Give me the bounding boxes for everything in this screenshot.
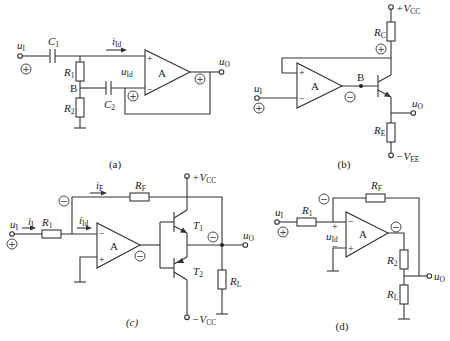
opamp-label-a: A (158, 67, 166, 79)
svg-text:C2: C2 (104, 98, 115, 112)
panel-b: +VCC RC B uI A + − uO RE −VEE + − + (b) (254, 2, 424, 171)
svg-text:−: − (392, 222, 400, 232)
polarity-mark: − (135, 251, 145, 261)
polarity-mark: + (254, 103, 264, 113)
input-terminal-b (255, 96, 260, 101)
svg-text:uI: uI (10, 218, 19, 232)
panel-d: uI R1 RF + uId − A − + R2 RL uO + − − (d… (275, 179, 446, 333)
output-terminal-b (411, 111, 416, 116)
polarity-mark: + (21, 64, 31, 74)
output-terminal-d (427, 274, 432, 279)
svg-text:C1: C1 (48, 35, 59, 49)
polarity-mark: − (208, 232, 218, 242)
svg-text:−: − (299, 93, 305, 104)
polarity-mark: − (345, 92, 355, 102)
svg-text:−: − (136, 251, 144, 261)
svg-text:R1: R1 (41, 216, 53, 230)
npn-transistor-t1 (174, 210, 187, 233)
resistor-rf-d (366, 194, 385, 202)
resistor-re-b (387, 123, 395, 142)
input-terminal-a (18, 54, 23, 59)
svg-text:+VCC: +VCC (192, 171, 216, 185)
svg-text:iI: iI (28, 215, 34, 229)
svg-text:+: + (129, 91, 137, 101)
svg-text:−VEE: −VEE (396, 150, 420, 164)
svg-text:RL: RL (229, 275, 242, 289)
svg-text:+: + (332, 221, 338, 232)
svg-text:R2: R2 (386, 254, 398, 268)
polarity-mark: − (319, 194, 329, 204)
capacitor-c2-a (106, 81, 111, 95)
resistor-r2-a (76, 98, 84, 117)
svg-text:iId: iId (112, 35, 122, 49)
svg-text:+: + (22, 64, 30, 74)
node-b-label-a: B (70, 82, 77, 94)
npn-transistor-b (378, 75, 391, 97)
resistor-r1-d (297, 218, 316, 226)
svg-text:−: − (147, 84, 153, 95)
svg-text:RE: RE (373, 124, 386, 138)
polarity-mark: + (376, 44, 386, 54)
resistor-rc-b (387, 22, 395, 41)
svg-text:uI: uI (254, 82, 263, 96)
svg-text:RL: RL (386, 288, 399, 302)
svg-text:uO: uO (434, 270, 446, 284)
panel-a: uI C1 R1 B R2 C2 iId uId A + − uO + + + … (17, 35, 231, 171)
svg-text:+: + (299, 67, 305, 78)
panel-c: uI iI R1 iF RF iId A − + +VCC T1 T2 uO R… (7, 171, 255, 329)
svg-text:RF: RF (134, 179, 146, 193)
polarity-mark: + (195, 74, 205, 84)
output-terminal-a (219, 70, 224, 75)
svg-text:uO: uO (219, 55, 231, 69)
polarity-mark: + (278, 227, 288, 237)
opamp-label-b: A (311, 80, 319, 92)
svg-text:R1: R1 (301, 204, 313, 218)
svg-text:uId: uId (121, 65, 133, 79)
input-terminal-d (275, 220, 280, 225)
svg-text:T1: T1 (193, 219, 203, 233)
svg-text:uI: uI (275, 206, 284, 220)
polarity-mark: − (59, 196, 69, 206)
svg-text:R1: R1 (63, 66, 75, 80)
resistor-rl-c (218, 270, 226, 289)
svg-text:iId: iId (79, 214, 89, 228)
circuit-figure: uI C1 R1 B R2 C2 iId uId A + − uO + + + … (0, 0, 450, 341)
opamp-label-c: A (110, 240, 118, 252)
svg-text:+: + (8, 239, 16, 249)
capacitor-c1-a (50, 49, 55, 63)
caption-a: (a) (109, 158, 122, 171)
svg-text:+: + (377, 44, 385, 54)
opamp-label-d: A (359, 228, 367, 240)
svg-text:−: − (99, 228, 105, 239)
vcc-pos-terminal-c (185, 174, 190, 179)
resistor-rl-d (400, 285, 408, 304)
resistor-r1-c (42, 230, 61, 238)
arrow-icon (121, 48, 127, 53)
pnp-transistor-t2 (174, 257, 187, 280)
caption-c: (c) (126, 316, 139, 329)
svg-text:−: − (348, 216, 354, 227)
svg-text:uO: uO (412, 97, 424, 111)
resistor-rf-c (130, 193, 149, 201)
vee-terminal-b (389, 153, 394, 158)
output-terminal-c (243, 243, 248, 248)
resistor-r1-a (76, 62, 84, 81)
svg-text:−: − (346, 92, 354, 102)
svg-text:−: − (332, 241, 338, 252)
svg-text:+: + (279, 227, 287, 237)
svg-text:+: + (255, 103, 263, 113)
resistor-r2-d (400, 250, 408, 269)
svg-text:−: − (60, 196, 68, 206)
svg-text:T2: T2 (193, 265, 203, 279)
svg-text:uO: uO (243, 229, 255, 243)
polarity-mark: + (128, 91, 138, 101)
input-terminal-c (10, 232, 15, 237)
node-b-label-b: B (357, 71, 364, 83)
svg-text:+VCC: +VCC (396, 2, 420, 16)
caption-b: (b) (338, 158, 351, 171)
vcc-terminal-b (389, 5, 394, 10)
svg-text:R2: R2 (63, 102, 75, 116)
svg-text:+: + (348, 243, 354, 254)
svg-text:−: − (320, 194, 328, 204)
polarity-mark: + (7, 239, 17, 249)
